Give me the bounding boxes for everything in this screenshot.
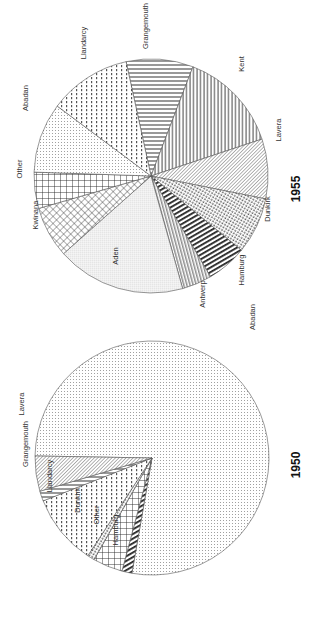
slice-label: Kwinana (31, 200, 40, 230)
slice-label: Llandarcy (45, 459, 54, 492)
slice-label: Abadan (248, 304, 257, 330)
slice-label: Grangemouth (141, 3, 150, 49)
slice-label: Other (15, 159, 24, 178)
pie-chart-figure: GrangemouthKentLaveraDunkirkHamburgAntwe… (0, 0, 321, 630)
slice-label: Hamburg (237, 255, 246, 286)
pie-1950 (35, 341, 269, 575)
slice-label: Llandarcy (79, 26, 88, 59)
slice-label: Lavera (274, 118, 283, 142)
slice-label: Aden (111, 247, 120, 265)
slice-label: Hamburg (111, 515, 120, 546)
pie-1955 (34, 59, 268, 293)
slice-label: Antwerp (198, 280, 207, 308)
slice-label: Abadan (21, 85, 30, 111)
slice-label: Dunkirk (73, 487, 82, 513)
slice-label: Other (92, 505, 101, 524)
title-1955: 1955 (289, 175, 303, 202)
slice-label: Lavera (17, 392, 26, 416)
slice-label: Dunkirk (263, 196, 272, 222)
slice-label: Kent (237, 55, 246, 71)
slice-label: Grangemouth (21, 421, 30, 467)
title-1950: 1950 (289, 451, 303, 478)
